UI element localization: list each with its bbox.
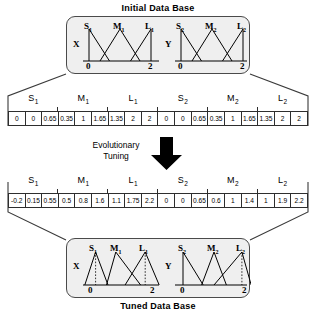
initial-data-base-title: Initial Data Base [0,3,316,13]
cell: 0 [158,194,175,208]
initial-membership-functions [67,17,251,75]
cell: 1.1 [108,194,125,208]
cell: 1.9 [274,194,291,208]
cell: 1.65 [241,112,258,126]
term-label-m2-tuned: M2 [207,243,219,255]
evolutionary-tuning-line1: Evolutionary [78,140,154,151]
cell: 0.35 [208,112,225,126]
evolutionary-tuning-line2: Tuning [78,151,154,162]
term-label-s2-tuned: S2 [178,243,186,255]
group-tick [9,189,59,194]
cell: 1 [75,112,92,126]
table-value-row: -0.2 0.15 0.55 0.5 0.8 1.6 1.1 1.75 2.2 … [9,194,308,208]
table-header-row: S1 M1 L1 S2 M2 L2 [9,91,308,107]
tick-y-0-initial: 0 [178,61,183,71]
table-group-ticks [9,189,308,194]
cell: 0.65 [191,112,208,126]
tick-y-2-tuned: 2 [242,285,247,295]
group-tick [108,107,158,112]
col-header-s2: S2 [158,91,208,107]
cell: 0.55 [42,194,59,208]
col-header-l2: L2 [258,173,308,189]
col-header-m1: M1 [58,91,108,107]
cell: 2 [291,112,308,126]
tick-x-0-tuned: 0 [88,285,93,295]
term-label-s1-initial: S1 [84,21,92,33]
cell: 2.2 [141,194,158,208]
cell: 0 [9,112,26,126]
term-label-m1-initial: M1 [113,21,125,33]
col-header-m1: M1 [58,173,108,189]
cell: 0.15 [25,194,42,208]
cell: 1 [258,194,275,208]
cell: 1.35 [258,112,275,126]
tick-y-2-initial: 2 [240,61,245,71]
tuned-data-base-table: S1 M1 L1 S2 M2 L2 -0.2 0.15 0.55 0.5 0.8… [8,173,308,208]
col-header-l2: L2 [258,91,308,107]
table-value-row: 0 0 0.65 0.35 1 1.65 1.35 2 2 0 0 0.65 0… [9,112,308,126]
col-header-s2: S2 [158,173,208,189]
cell: 0.6 [208,194,225,208]
cell: 2 [125,112,142,126]
cell: 0.5 [58,194,75,208]
group-tick [258,107,308,112]
term-label-m2-initial: M2 [205,21,217,33]
cell: 0 [175,194,192,208]
cell: 2 [141,112,158,126]
col-header-l1: L1 [108,91,158,107]
col-header-m2: M2 [208,91,258,107]
tick-x-2-initial: 2 [148,61,153,71]
group-tick [108,189,158,194]
table-header-row: S1 M1 L1 S2 M2 L2 [9,173,308,189]
cell: 0 [158,112,175,126]
term-label-s2-initial: S2 [176,21,184,33]
cell: 0.65 [42,112,59,126]
table-group-ticks [9,107,308,112]
initial-data-base-panel: X Y S1 M1 L1 S2 M2 L2 [66,16,250,74]
term-label-l1-initial: L1 [145,21,154,33]
cell: 1 [224,112,241,126]
cell: 1.6 [92,194,109,208]
col-header-s1: S1 [9,173,59,189]
initial-data-base-table: S1 M1 L1 S2 M2 L2 0 0 0.65 0.35 1 1.65 1… [8,91,308,126]
group-tick [158,189,208,194]
group-tick [9,107,59,112]
group-tick [58,189,108,194]
tuned-data-base-title: Tuned Data Base [0,301,316,311]
cell: 0 [25,112,42,126]
col-header-s1: S1 [9,91,59,107]
cell: 0 [175,112,192,126]
cell: 1.35 [108,112,125,126]
term-label-m1-tuned: M1 [110,243,122,255]
cell: 0.65 [191,194,208,208]
term-label-l1-tuned: L1 [139,243,148,255]
term-label-l2-tuned: L2 [236,243,245,255]
group-tick [208,107,258,112]
figure-canvas: Initial Data Base X Y S1 M1 L1 [0,0,316,315]
cell: 0.35 [58,112,75,126]
evolutionary-tuning-label: Evolutionary Tuning [78,140,154,161]
group-tick [208,189,258,194]
group-tick [158,107,208,112]
cell: 1.75 [125,194,142,208]
term-label-s1-tuned: S1 [89,243,97,255]
cell: 1.4 [241,194,258,208]
group-tick [58,107,108,112]
cell: 0.8 [75,194,92,208]
cell: 2 [274,112,291,126]
cell: 1.65 [92,112,109,126]
col-header-l1: L1 [108,173,158,189]
tick-x-0-initial: 0 [86,61,91,71]
down-arrow-icon [150,137,184,171]
col-header-m2: M2 [208,173,258,189]
tick-x-2-tuned: 2 [150,285,155,295]
tuned-data-base-panel: X Y S1 M1 L1 S2 [66,238,250,298]
term-label-l2-initial: L2 [237,21,246,33]
cell: 2.2 [291,194,308,208]
tick-y-0-tuned: 0 [180,285,185,295]
cell: -0.2 [9,194,26,208]
cell: 1 [224,194,241,208]
group-tick [258,189,308,194]
